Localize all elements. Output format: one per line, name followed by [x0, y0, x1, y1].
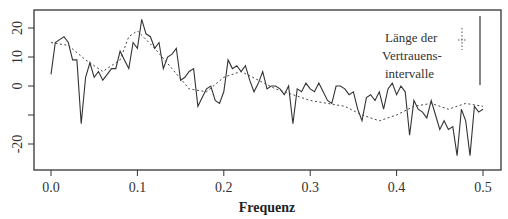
y-tick-label: 10 — [10, 50, 25, 64]
x-tick-label: 0.5 — [474, 180, 492, 195]
periodogram-chart: 20100-20 0.00.10.20.30.40.5 Länge der Ve… — [0, 0, 508, 219]
legend-line-1: Länge der — [385, 30, 438, 45]
x-axis: 0.00.10.20.30.40.5 — [42, 170, 492, 195]
x-tick-label: 0.4 — [388, 180, 406, 195]
y-tick-label: 0 — [10, 83, 25, 90]
x-tick-label: 0.1 — [129, 180, 147, 195]
x-tick-label: 0.3 — [301, 180, 319, 195]
legend: Länge der Vertrauens- intervalle — [382, 16, 480, 85]
y-axis: 20100-20 — [10, 21, 34, 153]
legend-line-3: intervalle — [385, 66, 434, 81]
x-tick-label: 0.0 — [42, 180, 60, 195]
x-axis-title: Frequenz — [239, 200, 296, 215]
legend-line-2: Vertrauens- — [382, 48, 442, 63]
x-tick-label: 0.2 — [215, 180, 233, 195]
y-tick-label: 20 — [10, 21, 25, 35]
y-tick-label: -20 — [10, 135, 25, 154]
